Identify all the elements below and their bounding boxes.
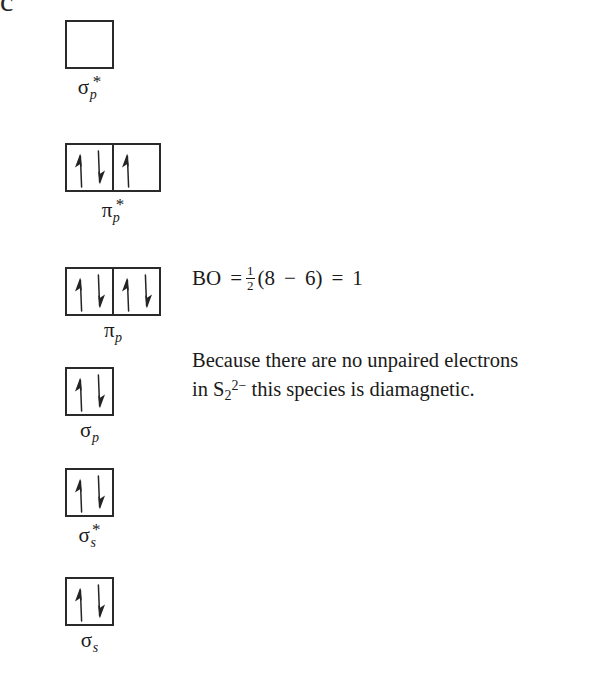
electron-arrow-up xyxy=(120,274,135,312)
electron-arrow-up xyxy=(73,584,88,622)
orbital-box xyxy=(65,468,114,517)
orbital-label-sigma-p: σp xyxy=(65,420,114,445)
antibonding-star: * xyxy=(116,195,125,214)
orbital-label-pi-p: πp xyxy=(65,320,161,345)
orbital-box xyxy=(112,267,161,316)
diamagnetic-note: Because there are no unpaired electrons … xyxy=(192,348,522,408)
orbital-subscript: p xyxy=(92,430,99,445)
mo-level-sigma-s: σs xyxy=(65,577,114,655)
bond-order-equation: BO=12(8−6)=1 xyxy=(192,264,363,292)
electron-arrow-up xyxy=(73,374,88,412)
antibonding-star: * xyxy=(92,520,101,539)
bond-order-equals: = xyxy=(230,266,242,290)
orbital-label-sigma-s: σs xyxy=(65,630,114,655)
electron-arrow-down xyxy=(92,274,107,312)
fraction-denominator: 2 xyxy=(246,278,255,293)
bond-order-result: 1 xyxy=(352,266,363,290)
orbital-subscript: s xyxy=(93,640,98,655)
orbital-box xyxy=(65,267,114,316)
mo-level-sigma-s-star: σs* xyxy=(65,468,114,550)
electron-arrow-down xyxy=(92,374,107,412)
bond-order-prefix: BO xyxy=(192,266,221,290)
note-line-2-lead: in S xyxy=(192,378,224,400)
orbital-box-row xyxy=(65,577,114,626)
note-line-1: Because there are no unpaired electrons xyxy=(192,349,518,371)
orbital-box-row xyxy=(65,143,161,192)
orbital-symbol: σ xyxy=(81,628,92,652)
orbital-label-sigma-s-star: σs* xyxy=(65,521,114,550)
one-half-fraction: 12 xyxy=(246,264,255,292)
orbital-symbol: σ xyxy=(80,418,91,442)
orbital-box-row xyxy=(65,367,114,416)
close-paren: ) xyxy=(315,266,322,290)
orbital-symbol: π xyxy=(104,318,115,342)
orbital-symbol: σ xyxy=(79,523,90,547)
orbital-box xyxy=(65,20,114,69)
antibonding-star: * xyxy=(93,72,102,91)
orbital-symbol: σ xyxy=(78,75,89,99)
orbital-box-row xyxy=(65,20,114,69)
orbital-box-row xyxy=(65,468,114,517)
electron-arrow-down xyxy=(92,475,107,513)
orbital-box xyxy=(65,367,114,416)
figure-corner-label: c xyxy=(0,0,13,16)
orbital-box-row xyxy=(65,267,161,316)
electron-arrow-up xyxy=(73,274,88,312)
mo-level-sigma-p: σp xyxy=(65,367,114,445)
electron-arrow-down xyxy=(92,584,107,622)
antibonding-electron-count: 6 xyxy=(305,266,316,290)
orbital-box xyxy=(65,577,114,626)
orbital-subscript: p xyxy=(115,330,122,345)
bonding-electron-count: 8 xyxy=(265,266,276,290)
orbital-label-sigma-p-star: σp* xyxy=(65,73,114,102)
electron-arrow-up xyxy=(120,150,135,188)
note-line-2-rest: this species is diamagnetic. xyxy=(246,378,474,400)
open-paren: ( xyxy=(258,266,265,290)
electron-arrow-down xyxy=(139,274,154,312)
mo-level-pi-p-star: πp* xyxy=(65,143,161,225)
sulfur-charge-superscript: 2− xyxy=(231,378,246,393)
orbital-symbol: π xyxy=(102,198,113,222)
orbital-box xyxy=(112,143,161,192)
electron-arrow-down xyxy=(92,150,107,188)
minus-sign: − xyxy=(284,266,296,290)
orbital-label-pi-p-star: πp* xyxy=(65,196,161,225)
orbital-box xyxy=(65,143,114,192)
electron-arrow-up xyxy=(73,475,88,513)
mo-level-sigma-p-star: σp* xyxy=(65,20,114,102)
mo-level-pi-p: πp xyxy=(65,267,161,345)
bond-order-equals-2: = xyxy=(331,266,343,290)
electron-arrow-up xyxy=(73,150,88,188)
fraction-numerator: 1 xyxy=(246,264,255,278)
